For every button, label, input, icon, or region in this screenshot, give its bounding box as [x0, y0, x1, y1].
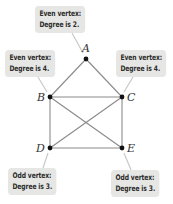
callout-C-line1: Even vertex: — [120, 53, 162, 64]
callout-E-line2: Degree is 3. — [115, 184, 155, 195]
vertex-E — [120, 146, 125, 151]
callout-C-line2: Degree is 4. — [120, 64, 162, 75]
callout-E-line1: Odd vertex: — [115, 173, 155, 184]
callout-B: Even vertex: Degree is 4. — [5, 50, 55, 77]
callout-B-line1: Even vertex: — [9, 53, 51, 64]
vertex-label-E: E — [127, 143, 135, 154]
callout-B-line2: Degree is 4. — [9, 64, 51, 75]
vertex-B — [48, 95, 53, 100]
edges — [50, 59, 122, 148]
vertex-C — [120, 95, 125, 100]
vertex-label-D: D — [36, 143, 45, 154]
pointer-B — [38, 77, 47, 92]
callout-A: Even vertex: Degree is 2. — [35, 6, 85, 33]
callout-A-line1: Even vertex: — [39, 9, 81, 20]
callout-C: Even vertex: Degree is 4. — [116, 50, 166, 77]
callout-D-line1: Odd vertex: — [12, 171, 52, 182]
callout-E: Odd vertex: Degree is 3. — [111, 170, 160, 197]
callout-D: Odd vertex: Degree is 3. — [8, 168, 57, 195]
callout-A-line2: Degree is 2. — [39, 20, 81, 31]
vertex-label-C: C — [127, 92, 135, 103]
vertex-label-B: B — [37, 92, 45, 103]
vertex-A — [84, 57, 89, 62]
callout-D-line2: Degree is 3. — [12, 182, 52, 193]
pointer-E — [124, 153, 131, 170]
pointer-C — [124, 77, 133, 92]
edge-A-B — [50, 59, 86, 97]
pointer-D — [43, 153, 48, 168]
vertex-label-A: A — [82, 43, 90, 54]
vertex-D — [48, 146, 53, 151]
